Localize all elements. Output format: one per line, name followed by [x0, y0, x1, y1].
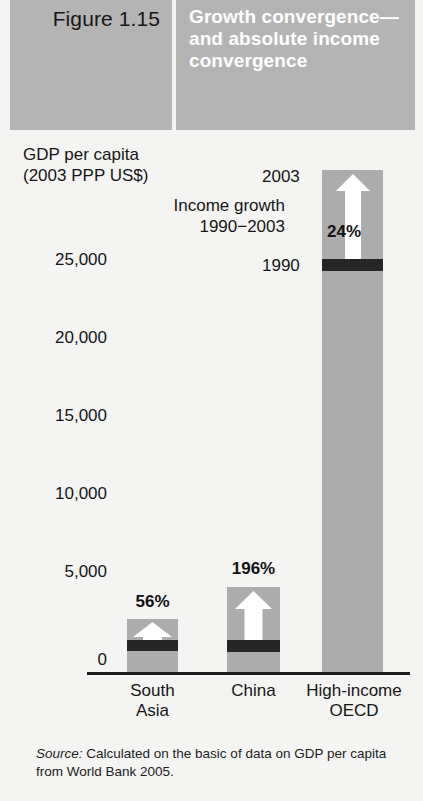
figure-title-panel: Growth convergence—and absolute income c…	[176, 0, 415, 130]
x-label-south-asia: South Asia	[112, 681, 193, 722]
bar-high-income-oecd: 24%	[322, 170, 383, 672]
source-note: Source: Calculated on the basic of data …	[36, 745, 411, 781]
y-tick-10000: 10,000	[12, 484, 107, 504]
value-band-1990-china	[227, 640, 280, 652]
x-label-china: China	[213, 681, 294, 701]
y-axis-title: GDP per capita (2003 PPP US$)	[23, 145, 148, 186]
annotation-year-2003: 2003	[262, 167, 300, 187]
value-band-1990-south-asia	[127, 640, 178, 651]
growth-arrow-icon	[233, 590, 274, 643]
annotation-year-1990: 1990	[262, 256, 300, 276]
annotation-income-growth: Income growth 1990−2003	[110, 196, 285, 237]
growth-label-high-income-oecd: 24%	[316, 222, 372, 242]
y-tick-5000: 5,000	[12, 562, 107, 582]
bar-china	[227, 587, 280, 672]
y-tick-0: 0	[12, 650, 107, 670]
growth-arrow-icon	[334, 173, 372, 265]
bar-south-asia	[127, 619, 178, 672]
growth-label-south-asia: 56%	[112, 592, 193, 612]
figure-number: Figure 1.15	[53, 7, 160, 31]
y-tick-15000: 15,000	[12, 406, 107, 426]
y-tick-25000: 25,000	[12, 250, 107, 270]
source-label: Source:	[36, 746, 83, 761]
x-axis-line	[87, 672, 410, 675]
figure-title: Growth convergence—and absolute income c…	[189, 6, 409, 72]
y-tick-20000: 20,000	[12, 328, 107, 348]
figure-number-panel: Figure 1.15	[10, 0, 172, 130]
growth-label-china: 196%	[213, 559, 294, 579]
value-band-1990-oecd	[322, 259, 383, 271]
figure-header: Figure 1.15 Growth convergence—and absol…	[10, 0, 415, 130]
chart-plot-area: GDP per capita (2003 PPP US$) 25,000 20,…	[0, 130, 423, 730]
x-label-high-income-oecd: High-income OECD	[298, 681, 410, 722]
source-text: Calculated on the basic of data on GDP p…	[36, 746, 386, 779]
